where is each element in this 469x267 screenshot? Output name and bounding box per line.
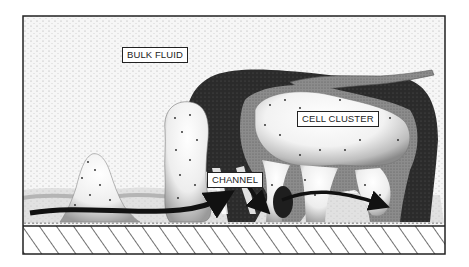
label-cell-cluster: CELL CLUSTER <box>297 111 379 127</box>
substratum <box>23 226 445 254</box>
dark-cell-blob <box>273 186 293 218</box>
label-channel: CHANNEL <box>207 172 263 188</box>
biofilm-diagram <box>0 0 469 267</box>
label-bulk-fluid: BULK FLUID <box>122 47 188 63</box>
